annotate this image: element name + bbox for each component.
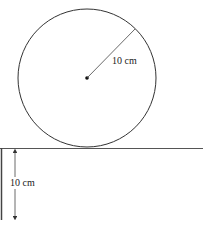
radius-line xyxy=(87,29,135,78)
height-label: 10 cm xyxy=(10,177,35,188)
radius-label: 10 cm xyxy=(112,55,137,66)
diagram-canvas: 10 cm 10 cm xyxy=(0,0,212,228)
